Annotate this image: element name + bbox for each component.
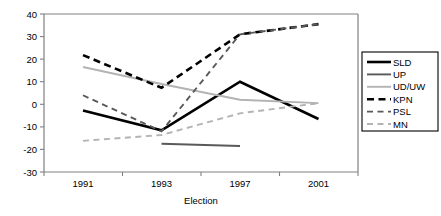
legend-label-up: UP (393, 69, 406, 80)
chart-svg: 40 30 20 10 0 -10 -20 -30 1991 1993 1997… (0, 0, 441, 216)
x-tick-label-1991: 1991 (72, 178, 93, 189)
legend-label-psl: PSL (393, 106, 411, 117)
x-tick-label-1993: 1993 (151, 178, 172, 189)
legend-label-sld: SLD (393, 57, 412, 68)
legend-label-mn: MN (393, 119, 408, 130)
y-tick-label-4: 0 (32, 99, 37, 110)
line-chart-figure: 40 30 20 10 0 -10 -20 -30 1991 1993 1997… (0, 0, 441, 216)
y-tick-label-5: -10 (23, 121, 37, 132)
y-tick-label-6: -20 (23, 144, 37, 155)
legend: SLDUPUD/UWKPNPSLMN (362, 52, 438, 131)
x-tick-label-1997: 1997 (229, 178, 250, 189)
legend-label-kpn: KPN (393, 94, 413, 105)
x-axis-title: Election (184, 195, 218, 206)
y-tick-label-0: 40 (26, 9, 37, 20)
y-tick-label-1: 30 (26, 31, 37, 42)
x-tick-label-2001: 2001 (308, 178, 329, 189)
y-tick-label-3: 10 (26, 76, 37, 87)
legend-label-ud-uw: UD/UW (393, 81, 425, 92)
y-tick-label-2: 20 (26, 54, 37, 65)
y-tick-label-7: -30 (23, 167, 37, 178)
